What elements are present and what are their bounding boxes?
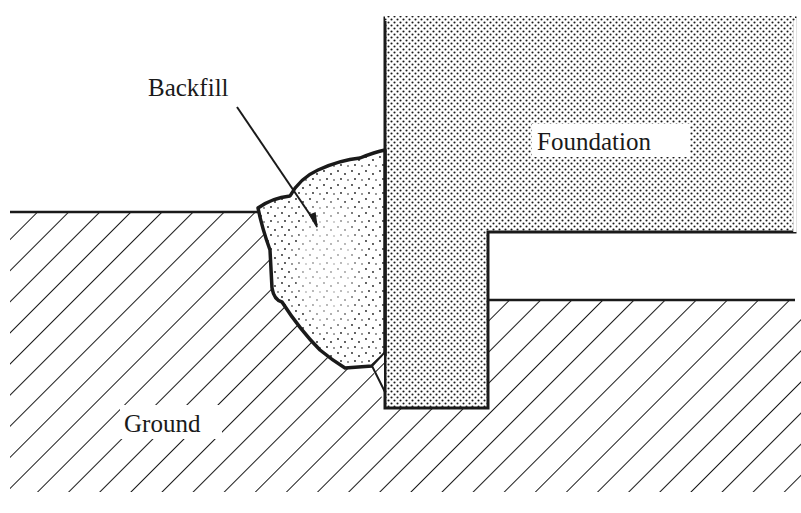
foundation-label: Foundation xyxy=(537,128,651,155)
label-foundation: Foundation xyxy=(532,124,690,157)
backfill-label: Backfill xyxy=(148,74,229,101)
label-ground: Ground xyxy=(120,405,222,439)
foundation-backfill-diagram: Backfill Foundation Ground xyxy=(0,0,801,513)
ground-label: Ground xyxy=(124,410,201,437)
label-backfill: Backfill xyxy=(148,74,229,101)
